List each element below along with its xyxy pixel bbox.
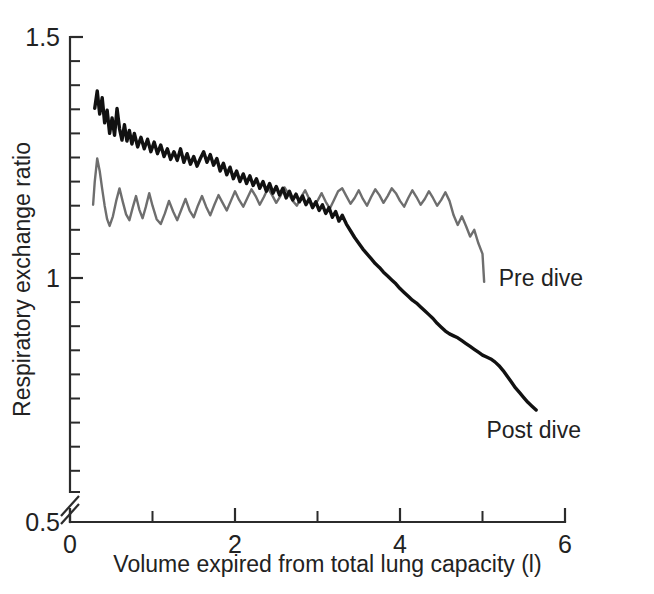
x-tick-label: 6 [558, 530, 572, 558]
y-tick-label: 1.5 [25, 23, 60, 51]
series-line-post-dive [95, 91, 536, 410]
respiratory-exchange-ratio-chart: 1.510.50246Volume expired from total lun… [0, 0, 654, 594]
x-tick-label: 0 [63, 530, 77, 558]
x-axis-title: Volume expired from total lung capacity … [113, 551, 541, 577]
y-tick-label: 0.5 [25, 508, 60, 536]
data-series [93, 91, 536, 410]
y-tick-label: 1 [46, 264, 60, 292]
series-line-pre-dive [93, 158, 484, 281]
chart-canvas: 1.510.50246Volume expired from total lun… [0, 0, 654, 594]
series-label-pre-dive: Pre dive [499, 265, 583, 291]
series-label-post-dive: Post dive [486, 417, 581, 443]
y-axis-title: Respiratory exchange ratio [9, 142, 35, 417]
axes [61, 37, 565, 524]
